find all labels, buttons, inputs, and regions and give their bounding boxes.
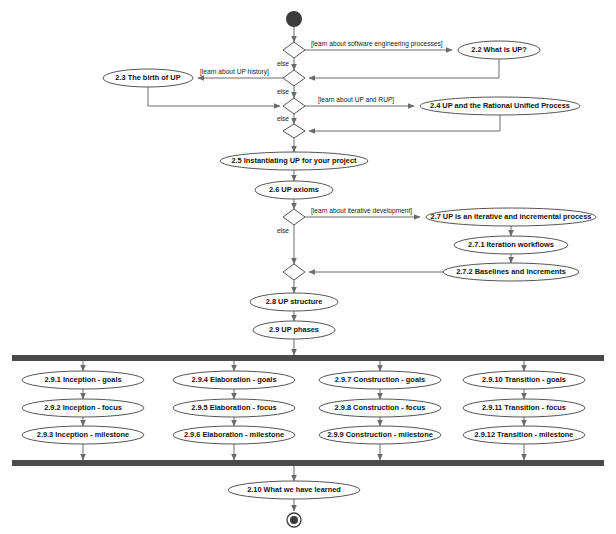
- activity-node-2-9[interactable]: 2.9 UP phases: [253, 321, 335, 339]
- guard-label-up-history: [learn about UP history]: [200, 68, 269, 76]
- decision-node-4: [283, 124, 305, 138]
- decision-node-2: [283, 70, 305, 86]
- activity-label: 2.2 What is UP?: [471, 45, 527, 54]
- activity-node-2-9-12[interactable]: 2.9.12 Transition - milestone: [463, 426, 585, 444]
- activity-node-2-3[interactable]: 2.3 The birth of UP: [103, 69, 193, 87]
- activity-node-2-9-3[interactable]: 2.9.3 Inception - milestone: [22, 426, 144, 444]
- final-node: [287, 513, 301, 527]
- activity-node-2-4[interactable]: 2.4 UP and the Rational Unified Process: [420, 97, 580, 115]
- activity-node-2-9-9[interactable]: 2.9.9 Construction - milestone: [319, 426, 441, 444]
- edge-a22-to-d2: [309, 59, 499, 78]
- activity-node-2-9-6[interactable]: 2.9.6 Elaboration - milestone: [173, 426, 295, 444]
- uml-activity-diagram: 2.2 What is UP? 2.3 The birth of UP 2.4 …: [0, 0, 616, 534]
- activity-node-2-9-1[interactable]: 2.9.1 Inception - goals: [22, 371, 144, 389]
- activity-label: 2.8 UP structure: [266, 297, 323, 306]
- activity-node-2-9-7[interactable]: 2.9.7 Construction - goals: [319, 371, 441, 389]
- activity-label: 2.9.6 Elaboration - milestone: [184, 430, 284, 439]
- activity-node-2-9-2[interactable]: 2.9.2 Inception - focus: [22, 399, 144, 417]
- activity-label: 2.4 UP and the Rational Unified Process: [430, 101, 570, 110]
- decision-node-3: [283, 98, 305, 114]
- guard-label-up-and-rup: [learn about UP and RUP]: [318, 96, 394, 104]
- edge-a23-to-d3: [148, 87, 280, 106]
- activity-node-2-9-8[interactable]: 2.9.8 Construction - focus: [319, 399, 441, 417]
- activity-label: 2.7 UP is an iterative and incremental p…: [431, 212, 592, 221]
- activity-node-2-2[interactable]: 2.2 What is UP?: [458, 41, 540, 59]
- activity-nodes: 2.2 What is UP? 2.3 The birth of UP 2.4 …: [22, 41, 596, 499]
- activity-node-2-5[interactable]: 2.5 Instantiating UP for your project: [220, 152, 368, 170]
- activity-node-2-10[interactable]: 2.10 What we have learned: [228, 481, 360, 499]
- activity-label: 2.9.1 Inception - goals: [44, 375, 121, 384]
- activity-label: 2.9.10 Transition - goals: [482, 375, 566, 384]
- else-label-3: else: [277, 115, 289, 122]
- activity-label: 2.3 The birth of UP: [115, 73, 180, 82]
- activity-diagram-canvas: 2.2 What is UP? 2.3 The birth of UP 2.4 …: [0, 0, 616, 534]
- guard-label-iterative-development: [learn about iterative development]: [311, 207, 412, 215]
- activity-node-2-9-4[interactable]: 2.9.4 Elaboration - goals: [173, 371, 295, 389]
- activity-label: 2.9.9 Construction - milestone: [327, 430, 433, 439]
- else-labels: else else else else: [277, 60, 289, 234]
- activity-label: 2.9.5 Elaboration - focus: [191, 403, 276, 412]
- activity-label: 2.9.7 Construction - goals: [335, 375, 425, 384]
- decision-node-6: [283, 264, 305, 280]
- activity-label: 2.6 UP axioms: [269, 185, 319, 194]
- else-label-2: else: [277, 88, 289, 95]
- decision-node-1: [283, 42, 305, 58]
- activity-node-2-7[interactable]: 2.7 UP is an iterative and incremental p…: [426, 208, 596, 226]
- join-bar: [12, 460, 604, 466]
- activity-node-2-9-11[interactable]: 2.9.11 Transition - focus: [463, 399, 585, 417]
- else-label-4: else: [277, 227, 289, 234]
- final-node-dot: [290, 516, 298, 524]
- fork-bar: [12, 355, 604, 361]
- activity-node-2-7-2[interactable]: 2.7.2 Baselines and increments: [443, 263, 579, 281]
- activity-label: 2.7.2 Baselines and increments: [456, 267, 566, 276]
- activity-node-2-7-1[interactable]: 2.7.1 Iteration workflows: [454, 236, 568, 254]
- activity-label: 2.9.3 Inception - milestone: [37, 430, 129, 439]
- decision-node-5: [283, 209, 305, 225]
- else-label-1: else: [277, 60, 289, 67]
- activity-node-2-9-5[interactable]: 2.9.5 Elaboration - focus: [173, 399, 295, 417]
- activity-label: 2.7.1 Iteration workflows: [468, 240, 554, 249]
- activity-label: 2.9 UP phases: [269, 325, 319, 334]
- initial-node: [286, 11, 302, 27]
- activity-label: 2.9.2 Inception - focus: [44, 403, 122, 412]
- activity-node-2-8[interactable]: 2.8 UP structure: [250, 293, 338, 311]
- activity-label: 2.10 What we have learned: [247, 485, 341, 494]
- activity-label: 2.9.12 Transition - milestone: [475, 430, 574, 439]
- activity-label: 2.9.11 Transition - focus: [482, 403, 566, 412]
- activity-label: 2.9.8 Construction - focus: [335, 403, 426, 412]
- activity-node-2-6[interactable]: 2.6 UP axioms: [255, 181, 333, 199]
- guard-label-software-engineering-processes: [learn about software engineering proces…: [311, 40, 443, 48]
- activity-label: 2.5 Instantiating UP for your project: [231, 156, 357, 165]
- edge-a24-to-d4: [309, 115, 500, 131]
- activity-node-2-9-10[interactable]: 2.9.10 Transition - goals: [463, 371, 585, 389]
- activity-label: 2.9.4 Elaboration - goals: [191, 375, 276, 384]
